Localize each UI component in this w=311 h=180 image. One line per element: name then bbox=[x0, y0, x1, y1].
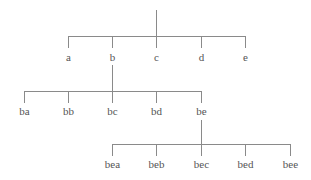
node-label-bd: bd bbox=[151, 106, 162, 117]
node-label-bec: bec bbox=[194, 159, 209, 170]
node-label-a: a bbox=[66, 52, 71, 63]
node-label-bed: bed bbox=[238, 159, 254, 170]
node-label-b: b bbox=[110, 52, 116, 63]
node-label-d: d bbox=[199, 52, 205, 63]
node-label-bee: bee bbox=[283, 159, 298, 170]
node-label-e: e bbox=[243, 52, 248, 63]
node-label-c: c bbox=[154, 52, 159, 63]
node-label-ba: ba bbox=[19, 106, 29, 117]
node-label-bc: bc bbox=[107, 106, 117, 117]
node-label-bb: bb bbox=[63, 106, 74, 117]
node-label-beb: beb bbox=[149, 159, 165, 170]
tree-diagram bbox=[0, 0, 311, 180]
node-label-bea: bea bbox=[105, 159, 120, 170]
node-label-be: be bbox=[196, 106, 206, 117]
